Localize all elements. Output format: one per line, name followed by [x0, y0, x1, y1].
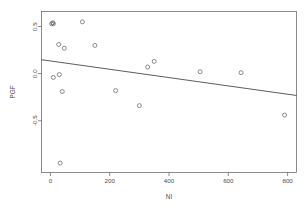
data-point: [80, 20, 84, 24]
plot-canvas: 02004006008000.50.0-0.5NIPGF: [0, 0, 308, 212]
data-point: [57, 42, 61, 46]
data-point: [239, 71, 243, 75]
y-axis-title: PGF: [9, 85, 16, 98]
y-axis-tick-label: 0.5: [32, 22, 39, 31]
y-axis-tick-label: -0.5: [32, 115, 39, 126]
data-point: [114, 89, 118, 93]
data-point: [146, 65, 150, 69]
scatter-plot-figure: 02004006008000.50.0-0.5NIPGF: [0, 0, 308, 212]
data-point: [152, 59, 156, 63]
y-axis-tick-label: 0.0: [32, 69, 39, 78]
data-point: [198, 70, 202, 74]
plot-frame: [42, 12, 297, 173]
x-axis-title: NI: [166, 193, 173, 200]
x-axis-tick-label: 0: [49, 177, 53, 184]
data-point: [51, 75, 55, 79]
x-axis-tick-label: 400: [164, 177, 175, 184]
regression-line: [42, 60, 297, 96]
data-point: [93, 43, 97, 47]
data-point: [58, 161, 62, 165]
x-axis-tick-label: 800: [282, 177, 293, 184]
x-axis-tick-label: 600: [223, 177, 234, 184]
data-point: [137, 104, 141, 108]
data-point: [62, 46, 66, 50]
x-axis-tick-label: 200: [105, 177, 116, 184]
data-point: [57, 73, 61, 77]
data-point: [283, 113, 287, 117]
data-point: [60, 90, 64, 94]
